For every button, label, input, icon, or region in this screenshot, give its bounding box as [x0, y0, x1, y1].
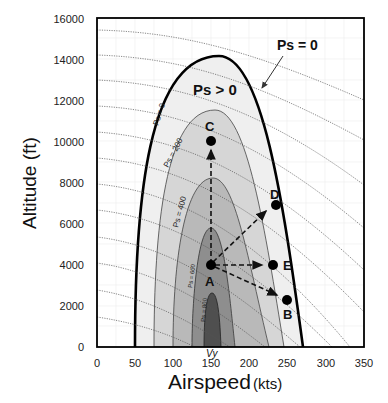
point-label-d: D [270, 187, 279, 202]
vy-label: Vy [206, 348, 218, 359]
point-c [206, 136, 216, 146]
chart: Ps = 0 Ps = 200 Ps = 400 Ps = 600 Ps = 8… [0, 0, 388, 403]
point-label-a: A [205, 274, 215, 289]
svg-text:2000: 2000 [60, 300, 84, 312]
x-axis-title: Airspeed [168, 370, 251, 393]
x-axis-ticks: 0 50 100 150 200 250 300 350 [94, 357, 373, 369]
point-label-b: B [283, 307, 292, 322]
svg-text:50: 50 [129, 357, 141, 369]
annotation-ps-positive: Ps > 0 [193, 81, 237, 98]
svg-text:14000: 14000 [53, 54, 84, 66]
svg-text:12000: 12000 [53, 95, 84, 107]
svg-text:350: 350 [355, 357, 373, 369]
svg-text:10000: 10000 [53, 136, 84, 148]
point-label-c: C [205, 119, 215, 134]
point-label-e: E [283, 258, 292, 273]
y-axis-ticks: 0 2000 4000 6000 8000 10000 12000 14000 … [53, 13, 84, 353]
svg-text:0: 0 [78, 341, 84, 353]
svg-text:200: 200 [240, 357, 258, 369]
svg-text:4000: 4000 [60, 259, 84, 271]
point-a [206, 260, 216, 270]
point-b [282, 295, 292, 305]
svg-text:250: 250 [278, 357, 296, 369]
svg-text:300: 300 [317, 357, 335, 369]
annotation-ps-zero: Ps = 0 [277, 37, 318, 53]
x-axis-unit: (kts) [253, 375, 282, 392]
svg-text:100: 100 [164, 357, 182, 369]
svg-text:16000: 16000 [53, 13, 84, 25]
y-axis-title: Altitude (ft) [19, 137, 40, 229]
point-e [268, 260, 278, 270]
svg-text:6000: 6000 [60, 218, 84, 230]
svg-text:0: 0 [94, 357, 100, 369]
svg-text:8000: 8000 [60, 177, 84, 189]
